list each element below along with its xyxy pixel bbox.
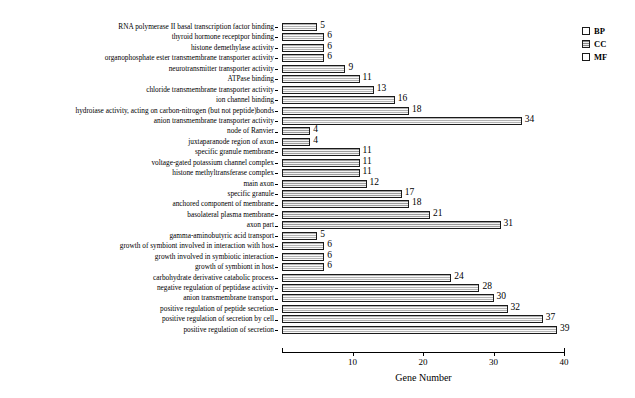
category-label: positive regulation of peptide secretion <box>0 304 278 314</box>
bar[interactable] <box>282 65 345 73</box>
bar[interactable] <box>282 75 360 83</box>
bar-value-label: 34 <box>525 114 535 125</box>
bar[interactable] <box>282 326 557 334</box>
bar-value-label: 21 <box>433 208 443 219</box>
bar[interactable] <box>282 190 402 198</box>
y-axis-tick <box>275 48 278 49</box>
bar[interactable] <box>282 107 409 115</box>
bar[interactable] <box>282 294 494 302</box>
y-axis-tick <box>275 58 278 59</box>
y-axis-tick <box>275 257 278 258</box>
bar[interactable] <box>282 242 324 250</box>
category-label: ion channel binding <box>0 95 278 105</box>
category-label: ATPase binding <box>0 74 278 84</box>
bar-value-label: 31 <box>504 218 514 229</box>
bar-value-label: 11 <box>363 145 372 156</box>
category-label: anion transmembrane transporter activity <box>0 116 278 126</box>
y-axis-tick <box>275 267 278 268</box>
y-axis-tick <box>275 236 278 237</box>
y-axis-tick <box>275 100 278 101</box>
bar[interactable] <box>282 274 451 282</box>
category-label: main axon <box>0 179 278 189</box>
y-axis-tick <box>275 246 278 247</box>
y-axis-tick <box>275 194 278 195</box>
bar[interactable] <box>282 315 543 323</box>
bar-value-label: 39 <box>560 323 570 334</box>
bar-row: 32 <box>282 304 564 314</box>
category-label: anion transmembrane transport <box>0 293 278 303</box>
category-axis-labels: RNA polymerase II basal transcription fa… <box>0 22 278 348</box>
category-label: juxtaparanode region of axon <box>0 137 278 147</box>
bar-value-label: 28 <box>482 281 492 292</box>
bar-value-label: 13 <box>377 83 387 94</box>
bar-value-label: 6 <box>327 250 332 261</box>
y-axis-tick <box>275 278 278 279</box>
bar-row: 39 <box>282 325 564 335</box>
bar[interactable] <box>282 232 317 240</box>
bar-row: 18 <box>282 106 564 116</box>
x-axis-title: Gene Number <box>282 372 565 383</box>
bar-row: 11 <box>282 158 564 168</box>
bar-row: 21 <box>282 210 564 220</box>
legend-item-bp[interactable]: BP <box>582 26 607 36</box>
bar-row: 5 <box>282 231 564 241</box>
legend-item-cc[interactable]: CC <box>582 39 607 49</box>
bar[interactable] <box>282 23 317 31</box>
bar[interactable] <box>282 169 360 177</box>
bar-row: 6 <box>282 241 564 251</box>
y-axis-tick <box>275 69 278 70</box>
y-axis-tick <box>275 121 278 122</box>
bar[interactable] <box>282 253 324 261</box>
bar-value-label: 17 <box>405 187 415 198</box>
y-axis-tick <box>275 111 278 112</box>
bar[interactable] <box>282 96 395 104</box>
y-axis-tick <box>275 205 278 206</box>
bar[interactable] <box>282 159 360 167</box>
category-label: growth involved in symbiotic interaction <box>0 252 278 262</box>
y-axis-tick <box>275 215 278 216</box>
bar-value-label: 18 <box>412 104 422 115</box>
x-axis-tick <box>353 352 354 356</box>
bar-value-label: 6 <box>327 260 332 271</box>
category-label: anchored component of membrane <box>0 199 278 209</box>
y-axis-tick <box>275 27 278 28</box>
y-axis-tick <box>275 132 278 133</box>
bar[interactable] <box>282 200 409 208</box>
bar[interactable] <box>282 33 324 41</box>
category-label: neurotransmitter transporter activity <box>0 64 278 74</box>
bar[interactable] <box>282 284 479 292</box>
bar-row: 11 <box>282 168 564 178</box>
bar[interactable] <box>282 44 324 52</box>
x-axis-tick-label: 30 <box>489 357 498 368</box>
bar[interactable] <box>282 180 367 188</box>
go-enrichment-bar-chart: RNA polymerase II basal transcription fa… <box>0 0 635 398</box>
bar[interactable] <box>282 221 501 229</box>
category-label: thyroid hormone receptpor binding <box>0 32 278 42</box>
bar-row: 4 <box>282 126 564 136</box>
bar[interactable] <box>282 54 324 62</box>
bar[interactable] <box>282 138 310 146</box>
x-axis-tick <box>423 352 424 356</box>
bar[interactable] <box>282 211 430 219</box>
bar-row: 17 <box>282 189 564 199</box>
y-axis-tick <box>275 163 278 164</box>
bar[interactable] <box>282 263 324 271</box>
plot-area: 5666911131618344411111112171821315666242… <box>282 22 564 348</box>
legend-item-mf[interactable]: MF <box>582 52 607 62</box>
bar[interactable] <box>282 148 360 156</box>
category-label: chloride transmembrane transporter activ… <box>0 85 278 95</box>
legend-label-mf: MF <box>594 52 607 62</box>
bar[interactable] <box>282 127 310 135</box>
category-label: axon part <box>0 220 278 230</box>
y-axis-tick <box>275 152 278 153</box>
x-axis-cap-left <box>282 348 283 353</box>
bar-row: 6 <box>282 43 564 53</box>
y-axis-tick <box>275 173 278 174</box>
legend: BP CC MF <box>582 26 607 62</box>
bar-row: 28 <box>282 283 564 293</box>
bar-row: 11 <box>282 147 564 157</box>
bar-value-label: 11 <box>363 166 372 177</box>
bar[interactable] <box>282 86 374 94</box>
bar[interactable] <box>282 305 508 313</box>
bar-value-label: 6 <box>327 41 332 52</box>
